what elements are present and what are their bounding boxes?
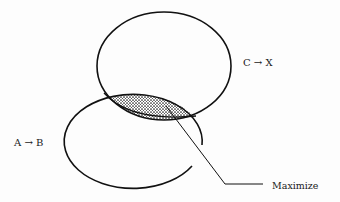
venn-diagram: C → X A → B Maximize <box>0 0 340 202</box>
label-c-to-x: C → X <box>243 58 273 68</box>
label-a-to-b: A → B <box>14 138 43 148</box>
diagram-graphic <box>0 0 340 202</box>
label-maximize: Maximize <box>272 181 318 191</box>
